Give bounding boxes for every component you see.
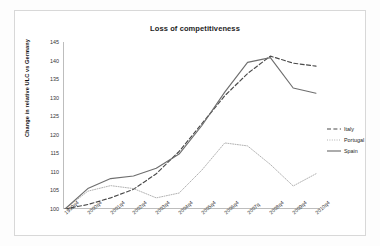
- legend-label: Portugal: [344, 137, 364, 143]
- y-tick-label: 110: [33, 169, 59, 175]
- legend-swatch-italy: [327, 126, 341, 132]
- legend-label: Italy: [344, 126, 354, 132]
- series-lines: [65, 56, 316, 209]
- y-tick-label: 145: [33, 39, 59, 45]
- legend-item-spain[interactable]: Spain: [327, 145, 380, 156]
- series-line-spain: [65, 58, 316, 209]
- legend-item-portugal[interactable]: Portugal: [327, 134, 380, 145]
- y-tick-label: 125: [33, 113, 59, 119]
- legend-swatch-portugal: [327, 137, 341, 143]
- y-tick-label: 135: [33, 76, 59, 82]
- y-tick-label: 120: [33, 132, 59, 138]
- chart-legend: ItalyPortugalSpain: [327, 123, 380, 156]
- series-line-portugal: [65, 143, 316, 209]
- series-line-italy: [65, 56, 316, 209]
- chart-figure: Loss of competitiveness Change in relati…: [0, 0, 380, 246]
- chart-title: Loss of competitiveness: [75, 24, 315, 33]
- y-tick-label: 115: [33, 150, 59, 156]
- legend-label: Spain: [344, 148, 358, 154]
- chart-frame: Loss of competitiveness Change in relati…: [14, 10, 366, 236]
- y-tick-label: 140: [33, 58, 59, 64]
- x-axis-tick-labels: 1999q42000q42001q42002q42003q42004q42005…: [63, 211, 325, 241]
- y-tick-label: 100: [33, 206, 59, 212]
- legend-swatch-spain: [327, 148, 341, 154]
- plot-area: [63, 42, 320, 209]
- plot-svg: [63, 42, 320, 209]
- y-axis-tick-labels: 100105110115120125130135140145: [29, 42, 59, 209]
- legend-item-italy[interactable]: Italy: [327, 123, 380, 134]
- y-tick-label: 105: [33, 187, 59, 193]
- y-tick-label: 130: [33, 95, 59, 101]
